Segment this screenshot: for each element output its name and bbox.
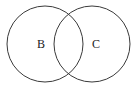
- set-b-label: B: [37, 37, 45, 51]
- venn-diagram: B C: [0, 0, 136, 87]
- set-c-label: C: [92, 37, 100, 51]
